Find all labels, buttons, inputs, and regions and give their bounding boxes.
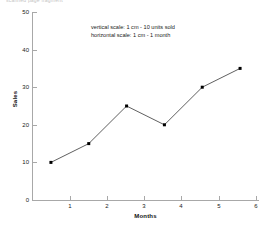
data-point-month-6: [239, 67, 242, 70]
data-point-month-4: [163, 123, 166, 126]
sales-line-chart: scanned page fragment 0 10 20 30 40 50 1…: [0, 0, 273, 228]
data-point-month-3: [125, 105, 128, 108]
data-point-month-5: [201, 86, 204, 89]
plot-area: [0, 0, 273, 228]
sales-line: [51, 68, 240, 162]
data-point-month-1: [49, 161, 52, 164]
data-point-month-2: [87, 142, 90, 145]
